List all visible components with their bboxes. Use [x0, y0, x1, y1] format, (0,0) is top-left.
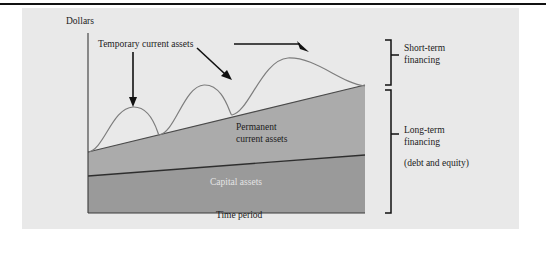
long-term-financing-bracket [385, 90, 391, 213]
capital-assets-label: Capital assets [210, 177, 262, 189]
figure-container: Dollars Temporary current assets Permane… [0, 0, 546, 257]
long-term-financing-label-line2: financing [404, 137, 445, 149]
permanent-current-assets-label-line2: current assets [236, 134, 287, 146]
debt-and-equity-label: (debt and equity) [404, 158, 469, 170]
short-term-financing-bracket [385, 40, 391, 85]
x-axis-label: Time period [216, 210, 262, 222]
long-term-financing-label-line1: Long-term [404, 125, 445, 137]
permanent-current-assets-label: Permanent current assets [236, 122, 287, 145]
short-term-financing-label-line2: financing [404, 55, 445, 67]
short-term-financing-label: Short-term financing [404, 43, 445, 66]
y-axis-label: Dollars [66, 16, 94, 28]
annotation-arrow-2-shaft [197, 48, 225, 74]
short-term-financing-label-line1: Short-term [404, 43, 445, 55]
annotation-arrow-3-head [297, 41, 309, 52]
permanent-current-assets-label-line1: Permanent [236, 122, 287, 134]
annotation-arrow-1-head [129, 97, 137, 107]
long-term-financing-label: Long-term financing [404, 125, 445, 148]
temporary-current-assets-label: Temporary current assets [98, 39, 193, 51]
